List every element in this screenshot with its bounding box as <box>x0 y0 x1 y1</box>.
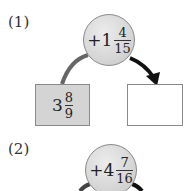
problem-1-start-box: 3 8 9 <box>35 84 90 126</box>
start-whole: 3 <box>52 95 63 115</box>
problem-2-right-arc <box>132 184 142 191</box>
operator-mixed-number: + 4 7 16 <box>89 156 133 185</box>
left-arc <box>62 55 88 84</box>
operator-numerator: 4 <box>118 26 126 39</box>
operator-denominator: 15 <box>114 42 131 55</box>
operator-whole: 1 <box>101 30 112 50</box>
problem-1-answer-box[interactable] <box>127 84 183 126</box>
operator-mixed-number: + 1 4 15 <box>87 26 131 55</box>
problem-2-label: (2) <box>8 140 29 158</box>
operator-numerator: 7 <box>120 156 128 169</box>
operator-fraction: 7 16 <box>116 156 133 185</box>
operator-whole: 4 <box>103 160 114 180</box>
operator-sign: + <box>87 30 101 50</box>
start-numerator: 8 <box>65 91 73 104</box>
operator-fraction: 4 15 <box>114 26 131 55</box>
operator-denominator: 16 <box>116 172 133 185</box>
problem-2-left-arc <box>80 184 90 191</box>
start-mixed-number: 3 8 9 <box>52 91 73 120</box>
problem-2-operator-circle: + 4 7 16 <box>85 144 137 191</box>
start-fraction: 8 9 <box>65 91 73 120</box>
operator-sign: + <box>89 160 103 180</box>
problem-1-operator-circle: + 1 4 15 <box>83 14 135 66</box>
start-denominator: 9 <box>65 107 73 120</box>
